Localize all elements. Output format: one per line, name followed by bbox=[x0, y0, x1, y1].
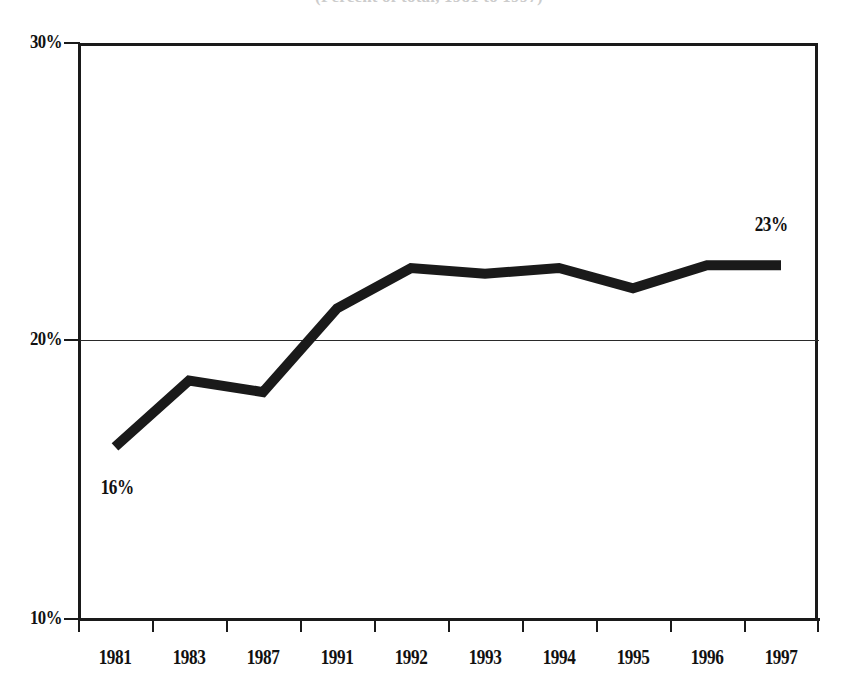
data-label-first: 16% bbox=[101, 476, 134, 499]
data-label-last: 23% bbox=[755, 213, 788, 236]
line-chart: 30% 20% 10% 1981 1983 1987 1991 1992 199… bbox=[0, 0, 851, 695]
data-series-line bbox=[0, 0, 851, 695]
